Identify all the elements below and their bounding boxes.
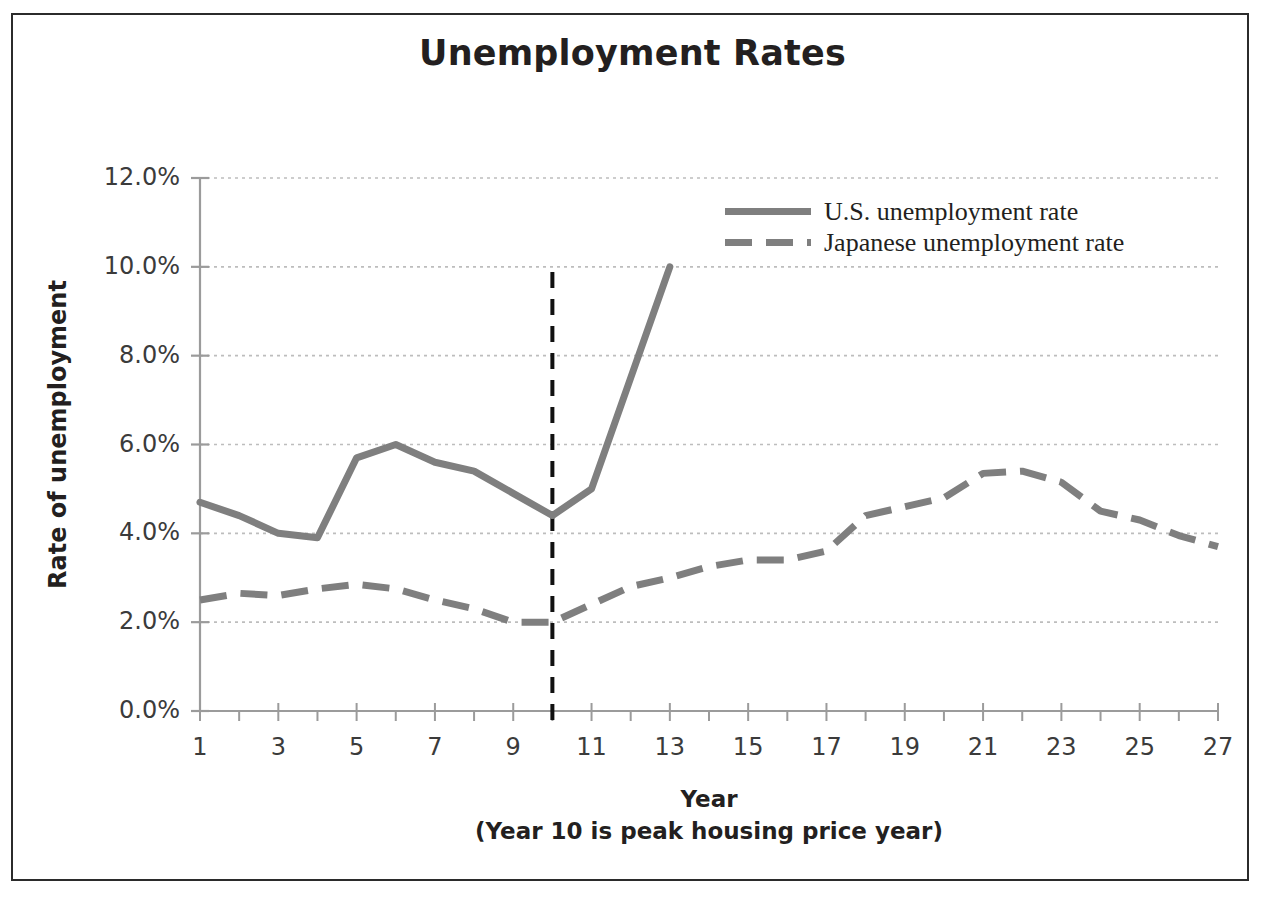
chart-figure: Unemployment Rates Rate of unemployment … [0, 0, 1265, 899]
x-axis-tick-label: 23 [1031, 735, 1091, 759]
plot-area [0, 0, 1265, 899]
legend: U.S. unemployment rate Japanese unemploy… [722, 196, 1152, 258]
x-axis-tick-label: 3 [248, 735, 308, 759]
series-line-japanese-unemployment-rate [200, 471, 1218, 622]
x-axis-tick-label: 15 [718, 735, 778, 759]
x-axis-tick-label: 7 [405, 735, 465, 759]
y-axis-tick-label: 10.0% [84, 254, 180, 278]
legend-item-us-unemployment-rate[interactable]: U.S. unemployment rate [722, 196, 1152, 227]
legend-item-japanese-unemployment-rate[interactable]: Japanese unemployment rate [722, 227, 1152, 258]
x-axis-tick-label: 21 [953, 735, 1013, 759]
y-axis-tick-label: 0.0% [84, 698, 180, 722]
y-axis-tick-label: 6.0% [84, 432, 180, 456]
y-axis-tick-label: 2.0% [84, 609, 180, 633]
x-axis-tick-label: 13 [640, 735, 700, 759]
legend-label-japanese-unemployment-rate: Japanese unemployment rate [814, 228, 1124, 258]
x-axis-tick-label: 11 [562, 735, 622, 759]
legend-label-us-unemployment-rate: U.S. unemployment rate [814, 197, 1078, 227]
x-axis-tick-label: 17 [796, 735, 856, 759]
x-axis-title: Year [200, 786, 1218, 812]
x-axis-tick-label: 25 [1110, 735, 1170, 759]
x-axis-tick-label: 19 [875, 735, 935, 759]
y-axis-tick-label: 12.0% [84, 165, 180, 189]
x-axis-tick-label: 27 [1188, 735, 1248, 759]
legend-swatch-dashed-line-icon [722, 227, 814, 258]
y-axis-tick-label: 8.0% [84, 343, 180, 367]
y-axis-tick-label: 4.0% [84, 520, 180, 544]
series-line-us-unemployment-rate [200, 267, 670, 538]
x-axis-tick-label: 5 [327, 735, 387, 759]
legend-swatch-solid-line-icon [722, 196, 814, 227]
x-axis-subtitle: (Year 10 is peak housing price year) [200, 818, 1218, 844]
x-axis-tick-label: 1 [170, 735, 230, 759]
x-axis-tick-label: 9 [483, 735, 543, 759]
